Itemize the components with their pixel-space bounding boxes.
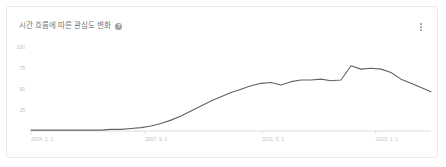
x-axis-tick-label: 2011. 5. 1 — [262, 136, 284, 142]
page-title: 시간 흐름에 따른 관심도 변화 — [19, 21, 111, 31]
trend-line-chart: 1007550252004. 1. 12007. 9. 12011. 5. 12… — [7, 33, 439, 159]
x-axis-tick-label: 2007. 9. 1 — [145, 136, 167, 142]
y-axis-tick-label: 75 — [19, 65, 25, 71]
title-row: 시간 흐름에 따른 관심도 변화 — [19, 21, 122, 31]
chart-plot-area[interactable]: 1007550252004. 1. 12007. 9. 12011. 5. 12… — [7, 33, 439, 159]
menu-dot — [420, 23, 422, 25]
menu-dot — [420, 26, 422, 28]
x-axis-tick-label: 2015. 1. 1 — [376, 136, 398, 142]
card-header: 시간 흐름에 따른 관심도 변화 — [7, 7, 437, 33]
interest-over-time-card: 시간 흐름에 따른 관심도 변화 1007550252004. 1. 12007… — [6, 6, 438, 158]
more-vert-icon[interactable] — [415, 20, 427, 34]
help-circle-icon[interactable] — [115, 23, 122, 30]
menu-dot — [420, 29, 422, 31]
y-axis-tick-label: 50 — [19, 86, 25, 92]
y-axis-tick-label: 25 — [19, 107, 25, 113]
trend-line-series — [31, 66, 431, 130]
y-axis-tick-label: 100 — [17, 44, 26, 50]
x-axis-tick-label: 2004. 1. 1 — [31, 136, 53, 142]
